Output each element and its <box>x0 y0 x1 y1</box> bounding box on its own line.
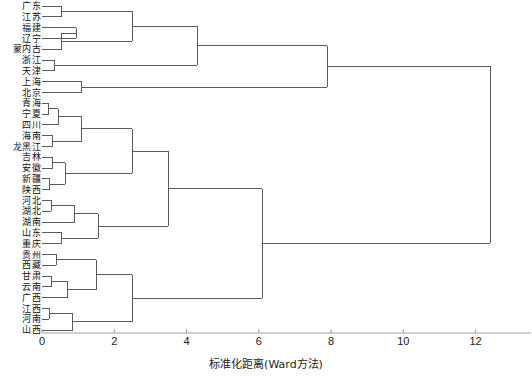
leaf-label-char: 广 <box>22 0 31 11</box>
leaf-label-char: 黑 <box>22 142 31 152</box>
leaf-label-char: 湖 <box>22 217 31 227</box>
leaf-label-char: 藏 <box>32 259 41 270</box>
leaf-label-char: 南 <box>32 313 41 324</box>
leaf-label-char: 辽 <box>22 34 31 44</box>
x-axis-tick-label: 12 <box>470 335 482 347</box>
leaf-label-char: 西 <box>32 185 41 195</box>
leaf-label-char: 福 <box>22 22 31 33</box>
dendrogram-figure: 东广苏江建福宁辽古内蒙江浙津天海上京北海青夏宁川四南海江黑龙林吉徽安疆新西陕北河… <box>0 0 532 379</box>
leaf-label-char: 海 <box>32 76 41 87</box>
leaf-label-char: 宁 <box>22 108 31 119</box>
leaf-label-char: 江 <box>22 304 31 314</box>
leaf-label-char: 吉 <box>22 152 31 162</box>
leaf-label-char: 建 <box>32 22 41 33</box>
leaf-label-char: 庆 <box>32 238 41 249</box>
leaf-label-char: 天 <box>22 66 31 76</box>
leaf-label-char: 河 <box>22 313 31 324</box>
leaf-label-char: 广 <box>22 292 31 303</box>
leaf-label-char: 西 <box>32 293 41 303</box>
leaf-label-char: 江 <box>32 142 41 152</box>
leaf-label-char: 重 <box>22 238 31 249</box>
leaf-label-char: 新 <box>22 173 31 184</box>
leaf-label-char: 海 <box>32 97 41 108</box>
dendrogram-canvas: 东广苏江建福宁辽古内蒙江浙津天海上京北海青夏宁川四南海江黑龙林吉徽安疆新西陕北河… <box>0 0 532 379</box>
leaf-label-char: 山 <box>22 228 31 238</box>
leaf-label-char: 林 <box>32 151 41 162</box>
leaf-label-char: 蒙 <box>13 43 22 54</box>
leaf-label-char: 甘 <box>22 270 31 281</box>
leaf-label-char: 川 <box>32 120 41 130</box>
x-axis-title: 标准化距离(Ward方法) <box>209 357 323 371</box>
leaf-label-char: 南 <box>32 281 41 292</box>
leaf-label-char: 西 <box>32 304 41 314</box>
leaf-label-char: 青 <box>22 97 31 108</box>
leaf-label-char: 龙 <box>13 141 22 152</box>
leaf-label-char: 东 <box>32 227 41 238</box>
leaf-label-char: 州 <box>32 250 41 260</box>
leaf-label-char: 陕 <box>22 184 31 195</box>
leaf-label-char: 东 <box>32 0 41 11</box>
leaf-label-char: 肃 <box>32 270 41 281</box>
x-axis-tick-label: 6 <box>256 335 262 347</box>
leaf-label-char: 海 <box>22 130 31 141</box>
leaf-label-char: 京 <box>32 87 41 98</box>
leaf-label-char: 湖 <box>22 206 31 216</box>
leaf-label-char: 江 <box>22 12 31 22</box>
leaf-label-char: 津 <box>32 66 41 76</box>
leaf-label-char: 江 <box>32 55 41 65</box>
leaf-label-char: 夏 <box>32 109 41 119</box>
x-axis-tick-label: 10 <box>397 335 409 347</box>
leaf-label-char: 宁 <box>32 33 41 44</box>
leaf-label-char: 西 <box>22 260 31 270</box>
leaf-label-char: 北 <box>32 196 41 206</box>
leaf-label-char: 安 <box>22 162 31 173</box>
leaf-label-char: 山 <box>22 325 31 335</box>
leaf-label-char: 浙 <box>22 54 31 65</box>
leaf-label-char: 北 <box>32 206 41 216</box>
leaf-label-char: 内 <box>22 43 31 54</box>
leaf-label-char: 苏 <box>32 11 41 22</box>
leaf-label-char: 贵 <box>22 249 31 260</box>
leaf-label-char: 上 <box>22 77 31 87</box>
leaf-label-char: 四 <box>22 120 31 130</box>
leaf-label-char: 南 <box>32 216 41 227</box>
leaf-label-char: 疆 <box>32 174 41 184</box>
x-axis-tick-label: 2 <box>111 335 117 347</box>
x-axis-tick-label: 0 <box>39 335 45 347</box>
leaf-label-char: 古 <box>32 43 41 54</box>
leaf-label-char: 河 <box>22 195 31 206</box>
leaf-label-char: 南 <box>32 130 41 141</box>
leaf-label-char: 西 <box>32 325 41 335</box>
leaf-label-char: 云 <box>22 282 31 292</box>
x-axis-tick-label: 4 <box>183 335 189 347</box>
x-axis-tick-label: 8 <box>328 335 334 347</box>
leaf-label-char: 徽 <box>32 162 41 173</box>
leaf-label-char: 北 <box>22 88 31 98</box>
